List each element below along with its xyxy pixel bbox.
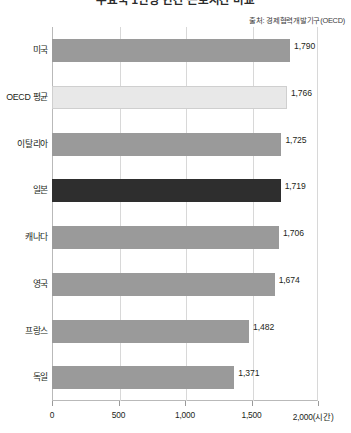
bar-row[interactable]: 1,706 (52, 214, 318, 261)
bar-value-label: 1,790 (294, 41, 315, 51)
y-axis-labels: 미국OECD 평균이탈리아일본캐나다영국프랑스독일 (0, 27, 48, 401)
x-tick-label: 2,000(시간) (293, 410, 334, 422)
category-label: OECD 평균 (0, 90, 48, 103)
bar-row[interactable]: 1,725 (52, 121, 318, 168)
x-tick-label: 0 (50, 410, 54, 420)
bar[interactable] (52, 320, 249, 343)
x-tick-mark (318, 401, 319, 406)
bar-row[interactable]: 1,790 (52, 27, 318, 74)
x-tick-label: 1,000 (175, 410, 195, 420)
bar-value-label: 1,766 (291, 88, 312, 98)
bar-value-label: 1,482 (253, 322, 274, 332)
x-tick-mark (119, 401, 120, 406)
x-tick-label: 500 (112, 410, 125, 420)
bar-value-label: 1,674 (279, 275, 300, 285)
x-tick-mark (185, 401, 186, 406)
bar[interactable] (52, 273, 275, 296)
x-tick-label: 1,500 (242, 410, 262, 420)
bar-row[interactable]: 1,482 (52, 308, 318, 355)
bar[interactable] (52, 86, 287, 109)
category-label: 일본 (0, 183, 48, 196)
bar[interactable] (52, 133, 281, 156)
bars-layer: 1,7901,7661,7251,7191,7061,6741,4821,371 (52, 27, 318, 401)
bar-row[interactable]: 1,766 (52, 74, 318, 121)
category-label: 이탈리아 (0, 137, 48, 150)
bar[interactable] (52, 39, 290, 62)
category-label: 독일 (0, 370, 48, 383)
bar-row[interactable]: 1,719 (52, 167, 318, 214)
bar[interactable] (52, 226, 279, 249)
page-title: 주요국 1인당 연간 근로시간 비교 (0, 0, 351, 7)
category-label: 캐나다 (0, 230, 48, 243)
category-label: 프랑스 (0, 324, 48, 337)
bar[interactable] (52, 366, 234, 389)
bar-value-label: 1,706 (283, 228, 304, 238)
category-label: 영국 (0, 277, 48, 290)
bar-row[interactable]: 1,674 (52, 261, 318, 308)
bar-value-label: 1,725 (285, 135, 306, 145)
x-tick-mark (52, 401, 53, 406)
category-label: 미국 (0, 43, 48, 56)
bar-row[interactable]: 1,371 (52, 354, 318, 401)
source-note: 출처: 경제협력개발기구(OECD) (249, 14, 345, 25)
bar-value-label: 1,719 (285, 181, 306, 191)
bar[interactable] (52, 179, 281, 202)
x-tick-mark (252, 401, 253, 406)
bar-chart: 주요국 1인당 연간 근로시간 비교 출처: 경제협력개발기구(OECD) 미국… (0, 0, 351, 433)
bar-value-label: 1,371 (238, 368, 259, 378)
